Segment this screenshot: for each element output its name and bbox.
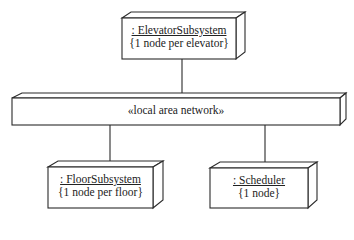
floor-node-name: : FloorSubsystem xyxy=(48,173,153,186)
floor-node-label: : FloorSubsystem {1 node per floor} xyxy=(48,173,153,199)
network-label: «local area network» xyxy=(12,104,340,116)
elevator-node-name: : ElevatorSubsystem xyxy=(122,24,236,37)
scheduler-node-constraint: {1 node} xyxy=(210,187,308,200)
scheduler-node-name: : Scheduler xyxy=(210,174,308,187)
floor-node-constraint: {1 node per floor} xyxy=(48,186,153,199)
scheduler-node-label: : Scheduler {1 node} xyxy=(210,174,308,200)
elevator-node-label: : ElevatorSubsystem {1 node per elevator… xyxy=(122,24,236,50)
elevator-node-constraint: {1 node per elevator} xyxy=(122,37,236,50)
